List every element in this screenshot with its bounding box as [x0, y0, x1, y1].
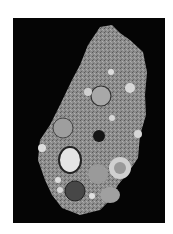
micrograph-image — [0, 0, 173, 234]
rock-section — [38, 25, 147, 215]
